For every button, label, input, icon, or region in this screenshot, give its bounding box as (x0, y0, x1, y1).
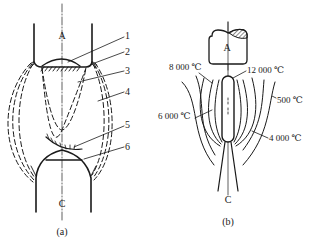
panel-b-caption: (b) (222, 217, 234, 227)
isotherm-left-5 (182, 82, 214, 165)
isotherm-label-12000: 12 000 ℃ (247, 66, 284, 75)
isotherm-right-1 (234, 80, 241, 142)
panel-b-cathode-label: C (225, 195, 232, 205)
panel-b-drawing (0, 0, 312, 243)
isotherm-label-500: 500 ℃ (277, 96, 303, 105)
panel-b-anode-label: A (223, 43, 230, 53)
isotherm-left-4 (196, 76, 215, 155)
isotherm-left-1 (215, 80, 222, 142)
figure-canvas: A C (a) 1 2 3 4 5 6 (0, 0, 312, 243)
cathode-cone-right (231, 142, 238, 191)
isotherm-label-6000: 6 000 ℃ (158, 112, 191, 121)
isotherm-label-4000: 4 000 ℃ (269, 134, 302, 143)
isotherm-label-8000: 8 000 ℃ (169, 63, 202, 72)
cathode-cone-left (218, 142, 225, 191)
isotherm-right-4 (243, 80, 264, 150)
isotherm-right-5 (243, 82, 275, 165)
